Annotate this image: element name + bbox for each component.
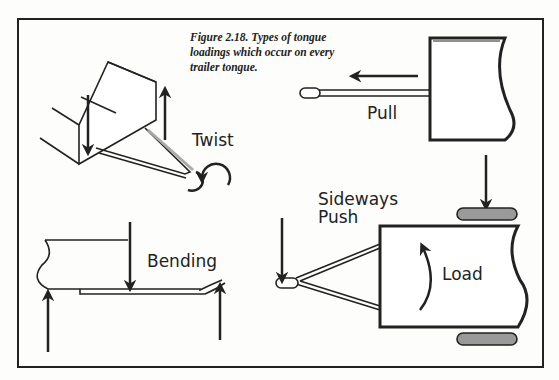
label-twist: Twist <box>192 131 234 149</box>
label-push: Push <box>318 208 358 226</box>
figure-caption: Figure 2.18. Types of tongue loadings wh… <box>190 30 350 75</box>
label-pull: Pull <box>367 104 397 122</box>
bending-diagram <box>37 222 225 352</box>
figure: Figure 2.18. Types of tongue loadings wh… <box>0 0 559 380</box>
label-load: Load <box>442 265 483 283</box>
twist-diagram <box>40 62 230 191</box>
label-bending: Bending <box>147 252 217 270</box>
label-sideways: Sideways <box>318 190 398 208</box>
load-diagram <box>276 208 527 345</box>
